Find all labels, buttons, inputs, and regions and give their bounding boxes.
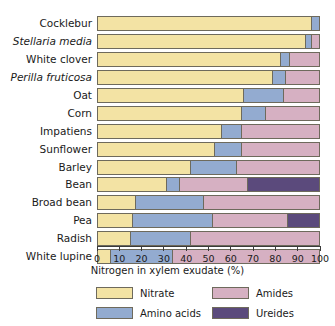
legend-label: Amino acids [140, 308, 201, 319]
x-axis-tick-label: 70 [247, 253, 259, 264]
bar-segment-amino [215, 143, 242, 156]
x-axis-tick-label: 50 [202, 253, 214, 264]
category-label: Impatiens [0, 124, 92, 139]
bar-row [97, 142, 320, 157]
bar-segment-amino [167, 178, 180, 191]
x-axis-tick-label: 100 [311, 253, 329, 264]
x-axis-tick-label: 0 [94, 253, 100, 264]
x-axis-tick [253, 246, 254, 251]
bar-segment-amides [204, 196, 319, 209]
x-axis-tick [297, 246, 298, 251]
bar-segment-amino [191, 161, 237, 174]
x-axis-tick [163, 246, 164, 251]
legend-item-ureides: Ureides [212, 303, 326, 323]
x-axis-tick-label: 20 [136, 253, 148, 264]
stacked-bar [97, 231, 320, 246]
bar-segment-amides [180, 178, 249, 191]
x-axis-tick-label: 30 [158, 253, 170, 264]
x-axis-tick [119, 246, 120, 251]
stacked-bar [97, 213, 320, 228]
bar-segment-amino [244, 89, 284, 102]
bar-segment-amino [312, 17, 319, 30]
stacked-bar [97, 106, 320, 121]
stacked-bar [97, 195, 320, 210]
bar-segment-nitrate [98, 35, 306, 48]
bar-segment-amino [281, 53, 290, 66]
bar-segment-amides [242, 125, 319, 138]
category-label: Corn [0, 106, 92, 121]
bar-segment-amino [136, 196, 205, 209]
category-label: Cocklebur [0, 16, 92, 31]
x-axis-tick-label: 40 [180, 253, 192, 264]
bar-segment-amides [242, 143, 319, 156]
bar-segment-amides [213, 214, 288, 227]
bar-segment-amides [286, 71, 319, 84]
bar-row [97, 34, 320, 49]
bar-row [97, 231, 320, 246]
chart-legend: Nitrate Amides Amino acids Ureides [96, 283, 326, 323]
bar-segment-nitrate [98, 143, 215, 156]
x-axis-tick-label: 60 [225, 253, 237, 264]
stacked-bar-chart: Cocklebur Stellaria media White clover P… [0, 0, 335, 326]
bar-segment-amides [266, 107, 319, 120]
stacked-bar [97, 142, 320, 157]
bar-segment-amides [191, 232, 319, 245]
bar-segment-amino [133, 214, 213, 227]
legend-label: Nitrate [140, 288, 175, 299]
legend-item-amides: Amides [212, 283, 326, 303]
bar-row [97, 160, 320, 175]
bar-segment-ureides [288, 214, 319, 227]
stacked-bar [97, 160, 320, 175]
bar-row [97, 88, 320, 103]
x-axis-tick [320, 246, 321, 251]
bar-segment-amides [290, 53, 319, 66]
bar-row [97, 195, 320, 210]
x-axis-tick-label: 10 [113, 253, 125, 264]
category-label: Oat [0, 88, 92, 103]
bar-segment-amino [273, 71, 286, 84]
bar-segment-amides [312, 35, 319, 48]
category-label: White clover [0, 52, 92, 67]
legend-item-amino-acids: Amino acids [96, 303, 212, 323]
bar-segment-nitrate [98, 89, 244, 102]
bar-segment-nitrate [98, 71, 273, 84]
x-axis-tick [141, 246, 142, 251]
bar-segment-nitrate [98, 178, 167, 191]
stacked-bar [97, 177, 320, 192]
bar-segment-nitrate [98, 53, 281, 66]
x-axis-tick-label: 90 [292, 253, 304, 264]
x-axis-tick [275, 246, 276, 251]
bar-segment-amino [306, 35, 313, 48]
bar-row [97, 70, 320, 85]
bar-segment-amino [131, 232, 191, 245]
bar-row [97, 52, 320, 67]
legend-swatch-icon [212, 307, 249, 319]
category-label: White lupine [0, 249, 92, 264]
bar-segment-amino [222, 125, 242, 138]
stacked-bar [97, 88, 320, 103]
bar-segment-nitrate [98, 125, 222, 138]
category-label: Bean [0, 177, 92, 192]
legend-item-nitrate: Nitrate [96, 283, 212, 303]
category-label: Stellaria media [0, 34, 92, 49]
bar-segment-nitrate [98, 214, 133, 227]
x-axis-tick [230, 246, 231, 251]
x-axis-tick-label: 80 [269, 253, 281, 264]
bar-segment-amides [284, 89, 319, 102]
bar-segment-amides [237, 161, 319, 174]
bar-segment-nitrate [98, 17, 312, 30]
bar-row [97, 177, 320, 192]
bar-segment-nitrate [98, 196, 136, 209]
category-label: Pea [0, 213, 92, 228]
x-axis: 0102030405060708090100 [97, 246, 320, 255]
category-label: Sunflower [0, 142, 92, 157]
legend-swatch-icon [212, 287, 249, 299]
legend-swatch-icon [96, 287, 133, 299]
bar-row [97, 213, 320, 228]
stacked-bar [97, 16, 320, 31]
bar-row [97, 106, 320, 121]
stacked-bar [97, 52, 320, 67]
category-label: Broad bean [0, 195, 92, 210]
stacked-bar [97, 124, 320, 139]
x-axis-tick [186, 246, 187, 251]
